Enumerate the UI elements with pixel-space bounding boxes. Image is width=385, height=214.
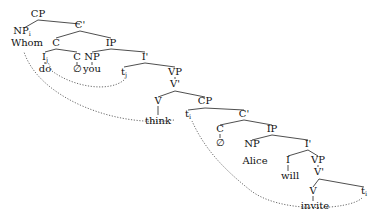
tree-branch: [319, 179, 364, 187]
tree-node-cp1: CP: [31, 8, 46, 19]
tree-node-you: you: [82, 63, 102, 74]
tree-node-will: will: [281, 170, 299, 181]
tree-node-vp2: VP: [310, 154, 325, 165]
tree-node-cbar2: C': [239, 108, 249, 119]
tree-branches: [24, 20, 364, 201]
tree-branch: [272, 135, 308, 140]
tree-node-v1: V: [153, 95, 162, 106]
tree-branch: [124, 63, 145, 67]
tree-node-alice: Alice: [241, 155, 267, 166]
tree-node-whom: Whom: [11, 37, 44, 48]
tree-branch: [111, 49, 145, 52]
node-index-subscript: i: [365, 190, 367, 198]
tree-branch: [38, 20, 80, 24]
tree-node-cp2: CP: [198, 95, 213, 106]
tree-node-c3: C: [216, 123, 224, 134]
tree-node-t_j: tj: [121, 66, 127, 79]
tree-node-vbar1: V': [169, 78, 180, 89]
tree-node-ip2: IP: [267, 123, 278, 134]
tree-node-c2: C: [73, 51, 81, 62]
node-index-subscript: i: [189, 113, 191, 121]
tree-node-ibar1: I': [142, 51, 149, 62]
tree-node-ip1: IP: [106, 37, 117, 48]
tree-branch: [288, 150, 308, 156]
tree-node-v2: V: [308, 185, 317, 196]
tree-node-vbar2: V': [313, 166, 324, 177]
tree-node-null1: ∅: [73, 63, 82, 74]
tree-branch: [188, 108, 205, 110]
tree-node-t_i2: ti: [361, 185, 367, 198]
tree-node-invite: invite: [301, 200, 330, 211]
tree-node-i2: I: [286, 154, 290, 165]
tree-node-c1: C: [52, 37, 60, 48]
tree-node-think: think: [145, 115, 172, 126]
node-index-subscript: j: [124, 71, 127, 79]
tree-node-null2: ∅: [216, 137, 225, 148]
tree-node-np2: NP: [244, 138, 260, 149]
syntax-tree-canvas: CPNPiC'WhomCIPIjCdo∅NPyouI'tjVPV'VCPthin…: [0, 0, 385, 214]
tree-branch: [45, 49, 56, 52]
tree-node-cbar1: C': [75, 19, 85, 30]
tree-node-ibar2: I': [305, 138, 312, 149]
tree-node-np1: NP: [84, 51, 100, 62]
tree-node-do: do: [39, 63, 51, 74]
tree-node-vp1: VP: [167, 66, 182, 77]
